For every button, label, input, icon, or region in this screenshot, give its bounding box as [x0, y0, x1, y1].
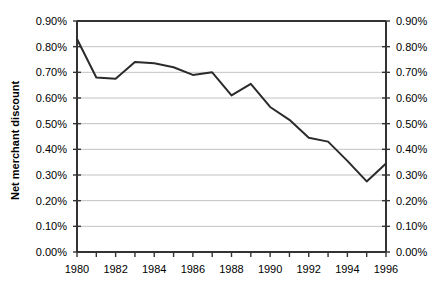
- chart-container: 0.90%0.80%0.70%0.60%0.50%0.40%0.30%0.20%…: [0, 0, 444, 292]
- y-axis-left-labels-group: 0.90%0.80%0.70%0.60%0.50%0.40%0.30%0.20%…: [36, 15, 67, 258]
- y-axis-right-tick-label: 0.70%: [396, 66, 427, 78]
- y-axis-left-tick-label: 0.00%: [36, 246, 67, 258]
- y-axis-right-tick-label: 0.90%: [396, 15, 427, 27]
- gridlines-group: [77, 47, 386, 227]
- data-line-series: [77, 39, 386, 181]
- data-series-group: [77, 39, 386, 181]
- y-axis-right-tick-label: 0.10%: [396, 220, 427, 232]
- y-axis-right-tick-label: 0.60%: [396, 92, 427, 104]
- y-axis-right-tick-label: 0.50%: [396, 118, 427, 130]
- line-chart: 0.90%0.80%0.70%0.60%0.50%0.40%0.30%0.20%…: [0, 0, 444, 292]
- x-axis-tick-label: 1996: [374, 263, 398, 275]
- y-axis-right-labels-group: 0.90%0.80%0.70%0.60%0.50%0.40%0.30%0.20%…: [396, 15, 427, 258]
- x-axis-tick-label: 1992: [297, 263, 321, 275]
- y-axis-right-tick-label: 0.00%: [396, 246, 427, 258]
- y-axis-left-tick-label: 0.40%: [36, 143, 67, 155]
- plot-frame-group: [77, 21, 386, 252]
- y-axis-left-tick-label: 0.30%: [36, 169, 67, 181]
- y-axis-left-tick-label: 0.60%: [36, 92, 67, 104]
- y-axis-left-tick-label: 0.80%: [36, 41, 67, 53]
- x-axis-tick-label: 1986: [181, 263, 205, 275]
- y-axis-left-tick-label: 0.50%: [36, 118, 67, 130]
- y-axis-left-tick-label: 0.90%: [36, 15, 67, 27]
- y-axis-right-tick-label: 0.30%: [396, 169, 427, 181]
- y-axis-title: Net merchant discount: [9, 80, 21, 200]
- x-axis-tick-label: 1984: [142, 263, 166, 275]
- x-axis-tick-label: 1980: [65, 263, 89, 275]
- y-axis-right-tick-label: 0.20%: [396, 195, 427, 207]
- x-axis-tick-label: 1988: [219, 263, 243, 275]
- y-axis-left-tick-label: 0.20%: [36, 195, 67, 207]
- x-axis-tick-label: 1990: [258, 263, 282, 275]
- x-axis-labels-group: 198019821984198619881990199219941996: [65, 263, 398, 275]
- y-axis-left-tick-label: 0.10%: [36, 220, 67, 232]
- x-axis-tick-label: 1982: [103, 263, 127, 275]
- x-axis-tick-label: 1994: [335, 263, 359, 275]
- y-axis-title-group: Net merchant discount: [9, 80, 21, 200]
- y-axis-right-tick-label: 0.80%: [396, 41, 427, 53]
- y-axis-left-tick-label: 0.70%: [36, 66, 67, 78]
- y-axis-right-tick-label: 0.40%: [396, 143, 427, 155]
